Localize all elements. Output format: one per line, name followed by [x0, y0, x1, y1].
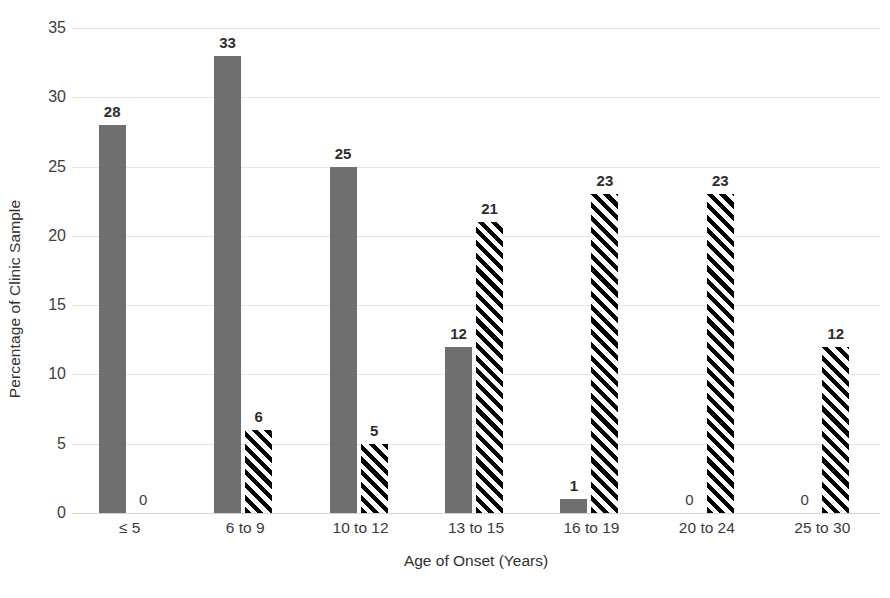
bar-solid-series-0[interactable]: [99, 125, 126, 513]
bar-value-label: 33: [208, 35, 248, 50]
plot-area: 2803362551221123023012: [72, 28, 880, 513]
bar-chart: Percentage of Clinic Sample 051015202530…: [0, 0, 890, 598]
bar-hatched-series-3[interactable]: [476, 222, 503, 513]
bar-value-label: 1: [554, 478, 594, 493]
bar-group: 123: [534, 28, 649, 513]
bar-value-label: 21: [469, 201, 509, 216]
bar-value-label: 6: [239, 409, 279, 424]
y-axis-tick-labels: 05101520253035: [24, 0, 66, 598]
y-tick-label-10: 10: [24, 366, 66, 382]
x-tick-label-6: 25 to 30: [762, 519, 882, 538]
bar-value-label: 25: [323, 146, 363, 161]
y-tick-label-0: 0: [24, 505, 66, 521]
bar-hatched-series-2[interactable]: [361, 444, 388, 513]
y-tick-label-15: 15: [24, 297, 66, 313]
y-tick-label-35: 35: [24, 20, 66, 36]
bar-group: 336: [187, 28, 302, 513]
y-tick-label-25: 25: [24, 159, 66, 175]
gridline-0: [72, 513, 880, 514]
bar-value-label: 28: [92, 104, 132, 119]
bar-hatched-series-5[interactable]: [707, 194, 734, 513]
bar-solid-series-4[interactable]: [560, 499, 587, 513]
bar-value-label: 12: [438, 326, 478, 341]
bar-solid-series-2[interactable]: [330, 167, 357, 513]
bar-group: 012: [765, 28, 880, 513]
x-tick-label-5: 20 to 24: [647, 519, 767, 538]
bar-solid-series-3[interactable]: [445, 347, 472, 513]
bar-value-label: 23: [585, 173, 625, 188]
y-tick-label-5: 5: [24, 436, 66, 452]
bar-value-label: 23: [700, 173, 740, 188]
x-axis-title: Age of Onset (Years): [72, 552, 880, 570]
bar-value-label: 0: [785, 492, 825, 507]
x-tick-label-3: 13 to 15: [416, 519, 536, 538]
bar-group: 023: [649, 28, 764, 513]
x-axis-tick-labels: ≤ 56 to 910 to 1213 to 1516 to 1920 to 2…: [72, 519, 880, 549]
x-tick-label-4: 16 to 19: [531, 519, 651, 538]
x-tick-label-1: 6 to 9: [185, 519, 305, 538]
bar-group: 1221: [418, 28, 533, 513]
bar-solid-series-1[interactable]: [214, 56, 241, 513]
bar-hatched-series-4[interactable]: [591, 194, 618, 513]
x-tick-label-2: 10 to 12: [301, 519, 421, 538]
bar-value-label: 0: [123, 492, 163, 507]
bar-hatched-series-6[interactable]: [822, 347, 849, 513]
y-tick-label-30: 30: [24, 89, 66, 105]
bar-hatched-series-1[interactable]: [245, 430, 272, 513]
bar-group: 255: [303, 28, 418, 513]
bar-value-label: 0: [669, 492, 709, 507]
bar-value-label: 12: [816, 326, 856, 341]
bar-group: 280: [72, 28, 187, 513]
y-tick-label-20: 20: [24, 228, 66, 244]
x-tick-label-0: ≤ 5: [70, 519, 190, 538]
bar-value-label: 5: [354, 423, 394, 438]
bars-layer: 2803362551221123023012: [72, 28, 880, 513]
